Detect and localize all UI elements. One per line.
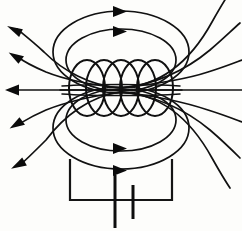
solenoid-coil (69, 60, 173, 116)
solenoid-field-diagram: Magnetic field of a current-carrying sol… (0, 0, 242, 231)
arrow-left-lower-inner (10, 117, 26, 130)
arrow-bottom-inner (113, 143, 127, 154)
arrow-top-inner (113, 26, 127, 37)
arrow-left-upper-outer (7, 23, 24, 38)
arrow-left-axis (5, 85, 19, 96)
diagram-canvas (0, 0, 242, 231)
arrow-left-upper-inner (9, 51, 25, 64)
magnetic-field-lines (14, 0, 242, 188)
circuit-wire-loop (70, 160, 172, 200)
arrow-bottom-outer (113, 165, 127, 176)
arrow-top-outer (113, 6, 127, 17)
arrow-left-lower-outer (11, 156, 28, 171)
field-line-right-lower-outer (121, 92, 230, 188)
